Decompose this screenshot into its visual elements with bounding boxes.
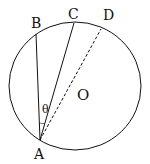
label-o: O <box>77 86 89 104</box>
chord-ab <box>36 34 40 140</box>
circle <box>9 22 141 150</box>
label-theta: θ <box>42 103 49 116</box>
label-d: D <box>103 7 114 23</box>
chord-ac <box>40 23 74 140</box>
diameter-ad <box>40 29 101 140</box>
label-c: C <box>68 6 79 22</box>
angle-arc <box>39 123 44 124</box>
circle-diagram: B C D A O θ <box>0 0 150 164</box>
label-a: A <box>33 146 45 162</box>
diagram-canvas: B C D A O θ <box>0 0 150 164</box>
label-b: B <box>31 15 41 31</box>
